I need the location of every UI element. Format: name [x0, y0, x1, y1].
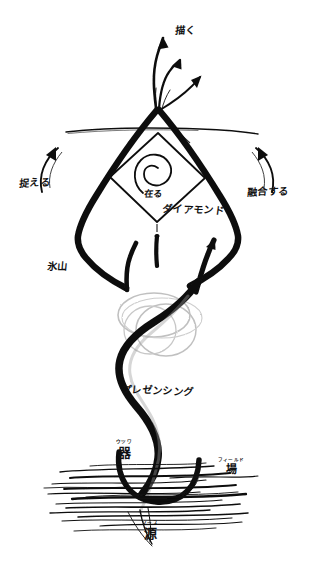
label-iceberg: 氷山	[47, 262, 68, 273]
seed-stem	[154, 224, 159, 266]
inner-rising-strokes	[126, 239, 215, 292]
label-be: 在る	[144, 190, 163, 199]
waterline	[66, 128, 258, 134]
diagram-canvas: 描く 捉える 融合する 在る ダイアモンド 氷山 プレゼンシング ウツワ 器 フ…	[0, 0, 314, 575]
label-draw: 描く	[175, 26, 196, 37]
sketch-artwork	[0, 0, 314, 575]
label-source: ソース 源	[128, 521, 172, 540]
label-grasp: 捉える	[19, 178, 50, 189]
label-fuse: 融合する	[247, 187, 289, 198]
label-field: フィールド 場	[205, 458, 257, 475]
label-diamond: ダイアモンド	[162, 205, 224, 216]
emerging-arrows	[154, 37, 202, 112]
label-vessel: ウツワ 器	[103, 440, 145, 459]
label-presencing: プレゼンシング	[121, 386, 194, 397]
spiral-icon	[135, 155, 171, 193]
